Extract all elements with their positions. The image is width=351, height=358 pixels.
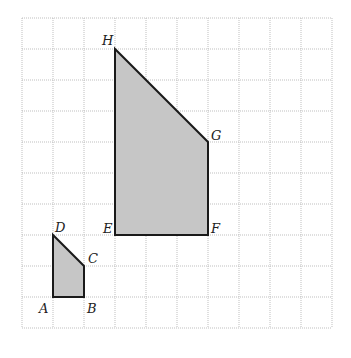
vertex-label-e: E [102, 221, 113, 236]
vertex-label-g: G [211, 128, 221, 143]
coordinate-grid-diagram: ABCDEFGH [0, 0, 351, 358]
small-quadrilateral [53, 235, 84, 297]
large-quadrilateral [115, 49, 208, 235]
vertex-label-d: D [54, 220, 66, 235]
vertex-label-a: A [38, 301, 48, 316]
vertex-label-c: C [88, 251, 98, 266]
vertex-label-b: B [86, 301, 97, 316]
vertex-label-h: H [101, 33, 114, 48]
vertex-label-f: F [210, 221, 221, 236]
